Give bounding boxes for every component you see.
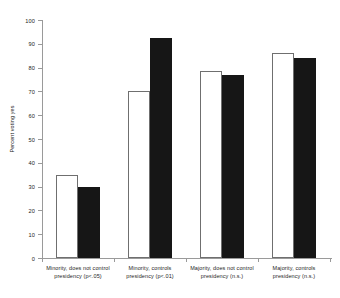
- y-axis-tick-label: 20: [29, 208, 35, 214]
- bar-filled-group-2: [150, 38, 172, 258]
- x-axis-tick-mark: [258, 258, 259, 262]
- y-axis-tick-label: 100: [25, 18, 35, 24]
- x-axis-group-label-2: Minority, controlspresidency (p<.01): [114, 265, 186, 280]
- y-axis-tick-label: 90: [29, 41, 35, 47]
- x-axis-tick-mark: [42, 258, 43, 262]
- bar-open-group-2: [128, 91, 150, 258]
- group-label-line2: presidency (p<.05): [42, 273, 114, 281]
- y-axis-title-text: Percent voting yes: [9, 105, 15, 152]
- group-label-line1: Minority, does not control: [46, 265, 110, 271]
- y-axis-tick-label: 70: [29, 89, 35, 95]
- group-label-line2: presidency (n.s.): [186, 273, 258, 281]
- y-axis-tick-label: 10: [29, 232, 35, 238]
- x-axis-group-label-3: Majority, does not controlpresidency (n.…: [186, 265, 258, 280]
- bar-open-group-4: [272, 53, 294, 258]
- group-label-line1: Majority, does not control: [190, 265, 254, 271]
- y-axis-tick-label: 0: [32, 256, 35, 262]
- x-axis-tick-mark: [330, 258, 331, 262]
- y-axis-tick-label: 30: [29, 184, 35, 190]
- y-axis-tick-label: 60: [29, 113, 35, 119]
- bar-filled-group-4: [294, 58, 316, 258]
- group-label-line2: presidency (n.s.): [258, 273, 330, 281]
- bar-filled-group-3: [222, 75, 244, 258]
- x-axis-tick-mark: [114, 258, 115, 262]
- x-axis-spine: [42, 258, 332, 259]
- group-label-line1: Majority, controls: [273, 265, 316, 271]
- bar-open-group-3: [200, 71, 222, 258]
- bar-filled-group-1: [78, 187, 100, 258]
- bar-chart-figure: Percent voting yes 010203040506070809010…: [0, 0, 340, 298]
- x-axis-tick-mark: [186, 258, 187, 262]
- x-axis-group-label-4: Majority, controlspresidency (n.s.): [258, 265, 330, 280]
- plot-area: [42, 20, 330, 258]
- y-axis-title: Percent voting yes: [4, 0, 20, 258]
- group-label-line2: presidency (p<.01): [114, 273, 186, 281]
- x-axis-group-label-1: Minority, does not controlpresidency (p<…: [42, 265, 114, 280]
- y-axis-tick-label: 80: [29, 65, 35, 71]
- y-axis-tick-label: 40: [29, 160, 35, 166]
- bar-open-group-1: [56, 175, 78, 258]
- group-label-line1: Minority, controls: [129, 265, 172, 271]
- y-axis-tick-label: 50: [29, 137, 35, 143]
